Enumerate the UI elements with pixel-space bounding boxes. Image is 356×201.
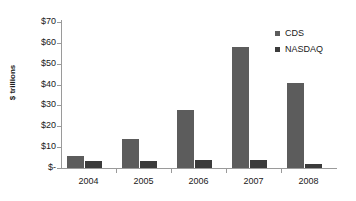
legend-label: NASDAQ [285, 44, 323, 54]
bar-nasdaq-2004 [85, 161, 102, 168]
bar-group [226, 22, 281, 168]
bar-nasdaq-2006 [195, 160, 212, 168]
legend-item-cds: CDS [275, 25, 323, 41]
legend-label: CDS [285, 28, 304, 38]
x-axis-tick-mark [116, 168, 117, 173]
bar-cds-2006 [177, 110, 194, 168]
bar-group [61, 22, 116, 168]
y-axis-tick-mark [57, 168, 62, 169]
x-axis-line [61, 168, 337, 169]
bar-nasdaq-2008 [305, 164, 322, 168]
y-axis-tick-label: $60 [10, 37, 56, 47]
bar-cds-2008 [287, 83, 304, 169]
bar-group [116, 22, 171, 168]
x-axis-label-2008: 2008 [274, 176, 344, 186]
bar-cds-2007 [232, 47, 249, 168]
bar-group [171, 22, 226, 168]
bar-cds-2004 [67, 156, 84, 169]
legend-swatch-icon [275, 47, 280, 52]
bar-chart: $ trillions $70$60$50$40$30$20$10$- 2004… [0, 0, 356, 201]
bar-nasdaq-2005 [140, 161, 157, 168]
x-axis-tick-mark [226, 168, 227, 173]
y-axis-tick-label: $- [10, 162, 56, 172]
y-axis-tick-label: $30 [10, 99, 56, 109]
y-axis-tick-label: $70 [10, 16, 56, 26]
x-axis-tick-mark [281, 168, 282, 173]
legend-swatch-icon [275, 31, 280, 36]
bar-nasdaq-2007 [250, 160, 267, 168]
legend: CDS NASDAQ [275, 25, 323, 57]
y-axis-tick-label: $10 [10, 141, 56, 151]
x-axis-tick-mark [171, 168, 172, 173]
y-axis-tick-label: $40 [10, 79, 56, 89]
y-axis-tick-label: $20 [10, 120, 56, 130]
legend-item-nasdaq: NASDAQ [275, 41, 323, 57]
bar-cds-2005 [122, 139, 139, 168]
y-axis-tick-label: $50 [10, 58, 56, 68]
